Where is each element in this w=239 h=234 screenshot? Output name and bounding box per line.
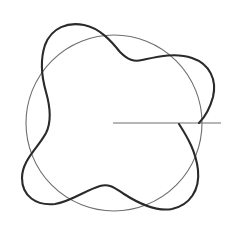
polar-wave-diagram: [0, 0, 239, 234]
diagram-canvas: [0, 0, 239, 234]
wave-curve: [22, 24, 214, 209]
